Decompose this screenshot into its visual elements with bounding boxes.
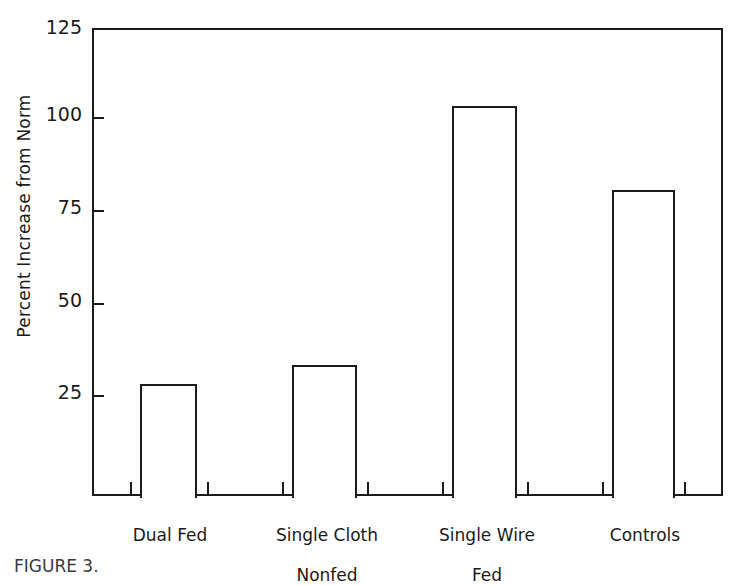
x-tick-5 <box>442 482 444 495</box>
y-tick-75 <box>93 210 104 212</box>
x-tick-8 <box>684 482 686 495</box>
y-tick-25 <box>93 395 104 397</box>
x-label-dual-fed: Dual Fed <box>110 505 230 545</box>
figure-caption: FIGURE 3. <box>14 556 728 574</box>
bar-single-cloth-nonfed <box>292 365 357 498</box>
x-tick-2 <box>207 482 209 495</box>
x-label-single-cloth-nonfed-line1: Single Cloth <box>262 525 392 545</box>
y-tick-label-25: 25 <box>36 383 82 402</box>
bar-single-wire-fed <box>452 106 517 498</box>
x-tick-6 <box>527 482 529 495</box>
plot-area <box>92 28 723 496</box>
x-label-controls-line1: Controls <box>610 525 680 545</box>
x-label-dual-fed-line1: Dual Fed <box>133 525 208 545</box>
y-tick-50 <box>93 303 104 305</box>
y-tick-label-75: 75 <box>36 198 82 217</box>
x-tick-4 <box>367 482 369 495</box>
y-tick-100 <box>93 117 104 119</box>
x-label-controls: Controls <box>580 505 710 545</box>
bar-controls <box>612 190 675 498</box>
y-tick-label-50: 50 <box>36 291 82 310</box>
x-tick-7 <box>602 482 604 495</box>
x-tick-1 <box>130 482 132 495</box>
bar-dual-fed <box>140 384 197 498</box>
y-tick-label-125: 125 <box>36 18 82 37</box>
x-label-single-wire-fed-line1: Single Wire <box>422 525 552 545</box>
x-tick-3 <box>282 482 284 495</box>
y-tick-label-100: 100 <box>36 105 82 124</box>
